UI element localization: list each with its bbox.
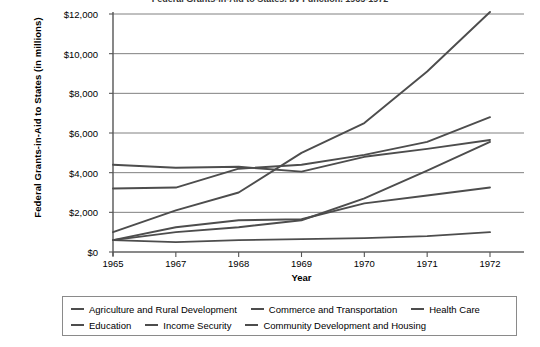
legend-line-swatch-icon: [245, 324, 258, 326]
legend-item[interactable]: Agriculture and Rural Development: [71, 304, 237, 315]
legend-line-swatch-icon: [71, 308, 84, 310]
plot-area: [0, 0, 540, 290]
legend-row-1: Agriculture and Rural DevelopmentCommerc…: [71, 301, 510, 317]
legend-item[interactable]: Education: [71, 320, 131, 331]
legend-item[interactable]: Community Development and Housing: [245, 320, 426, 331]
legend-line-swatch-icon: [145, 324, 158, 326]
series-line-agriculture-and-rural-development: [113, 12, 490, 232]
legend-line-swatch-icon: [71, 324, 84, 326]
legend-line-swatch-icon: [251, 308, 264, 310]
legend-item[interactable]: Commerce and Transportation: [251, 304, 397, 315]
series-line-community-development-and-housing: [113, 142, 490, 240]
legend-label: Health Care: [429, 304, 480, 315]
legend-label: Agriculture and Rural Development: [89, 304, 237, 315]
legend-label: Community Development and Housing: [263, 320, 426, 331]
legend-label: Education: [89, 320, 131, 331]
legend-line-swatch-icon: [411, 308, 424, 310]
legend-label: Commerce and Transportation: [269, 304, 397, 315]
chart-container: Federal Grants-in-Aid to States, by Func…: [0, 0, 540, 347]
chart-legend: Agriculture and Rural DevelopmentCommerc…: [62, 296, 517, 336]
legend-item[interactable]: Health Care: [411, 304, 480, 315]
legend-item[interactable]: Income Security: [145, 320, 231, 331]
legend-row-2: EducationIncome SecurityCommunity Develo…: [71, 317, 510, 333]
legend-label: Income Security: [163, 320, 231, 331]
